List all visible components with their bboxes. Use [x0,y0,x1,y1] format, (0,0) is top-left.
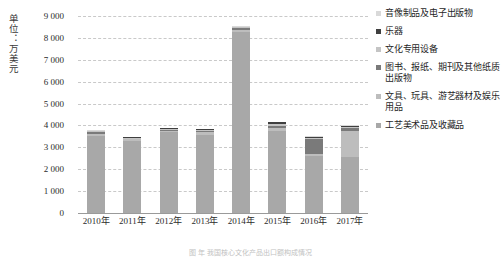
bar-group[interactable] [196,16,214,213]
x-axis-tick-label: 2014年 [226,215,256,231]
y-axis-tick-label: 9 000 [18,12,64,21]
legend-item-label: 音像制品及电子出版物 [385,8,473,19]
y-axis-unit-label: 单位：万美元 [2,14,18,164]
figure-caption: 图 年 我国核心文化产品出口额构成情况 [0,249,501,258]
legend-swatch-audio-video [376,11,381,16]
x-axis-tick-label: 2011年 [117,215,147,231]
bar-group[interactable] [123,16,141,213]
bar-segment[interactable] [305,156,323,213]
y-axis-tick-label: 5 000 [18,99,64,108]
x-axis-tick-labels: 2010年2011年2012年2013年2014年2015年2016年2017年 [78,215,368,231]
legend-item[interactable]: 音像制品及电子出版物 [376,8,500,19]
bar-group[interactable] [305,16,323,213]
bar-group[interactable] [160,16,178,213]
bar-segment[interactable] [196,135,214,213]
bar-group[interactable] [87,16,105,213]
chart-legend: 音像制品及电子出版物乐器文化专用设备图书、报纸、期刊及其他纸质出版物文具、玩具、… [376,8,500,213]
legend-swatch-equipment [376,47,381,52]
bar-series-container [78,16,368,213]
chart-figure: 单位：万美元 9 0008 0007 0006 0005 0004 0003 0… [0,0,501,258]
legend-item-label: 乐器 [385,26,403,37]
plot-area: 9 0008 0007 0006 0005 0004 0003 0002 000… [78,16,368,213]
legend-item[interactable]: 乐器 [376,26,500,37]
y-axis-tick-label: 1 000 [18,187,64,196]
bar-segment[interactable] [268,131,286,213]
legend-swatch-instruments [376,29,381,34]
bar-group[interactable] [268,16,286,213]
legend-item[interactable]: 文化专用设备 [376,44,500,55]
bar-segment[interactable] [232,32,250,213]
bar-group[interactable] [341,16,359,213]
bar-segment[interactable] [341,157,359,213]
legend-swatch-publications [376,65,381,70]
y-axis-tick-label: 0 [18,209,64,218]
x-axis-tick-label: 2013年 [190,215,220,231]
legend-item-label: 文化专用设备 [385,44,438,55]
legend-item-label: 文具、玩具、游艺器材及娱乐用品 [385,91,500,113]
legend-swatch-stationery-toys [376,94,381,99]
y-axis-tick-label: 3 000 [18,143,64,152]
x-axis-tick-label: 2016年 [299,215,329,231]
legend-item[interactable]: 工艺美术品及收藏品 [376,120,500,131]
bar-group[interactable] [232,16,250,213]
bar-segment[interactable] [160,132,178,213]
bar-segment[interactable] [341,131,359,157]
legend-item[interactable]: 文具、玩具、游艺器材及娱乐用品 [376,91,500,113]
bar-segment[interactable] [87,136,105,213]
x-axis-line [78,213,368,214]
y-axis-tick-label: 7 000 [18,55,64,64]
x-axis-tick-label: 2017年 [335,215,365,231]
legend-swatch-handicrafts [376,123,381,128]
x-axis-tick-label: 2015年 [262,215,292,231]
y-axis-tick-label: 4 000 [18,121,64,130]
x-axis-tick-label: 2010年 [81,215,111,231]
y-axis-tick-label: 8 000 [18,33,64,42]
legend-item-label: 工艺美术品及收藏品 [385,120,464,131]
legend-item[interactable]: 图书、报纸、期刊及其他纸质出版物 [376,62,500,84]
bar-segment[interactable] [305,139,323,154]
bar-segment[interactable] [123,141,141,213]
legend-item-label: 图书、报纸、期刊及其他纸质出版物 [385,62,500,84]
y-axis-tick-label: 6 000 [18,77,64,86]
x-axis-tick-label: 2012年 [154,215,184,231]
y-axis-tick-label: 2 000 [18,165,64,174]
